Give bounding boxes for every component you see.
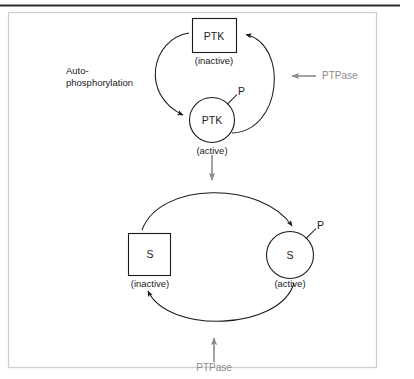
autophosphorylation-label-line2: phosphorylation bbox=[66, 78, 133, 89]
s-phosphate-label: P bbox=[317, 219, 324, 231]
autophosphorylation-arc bbox=[155, 33, 189, 115]
ptk-inactive-label: PTK bbox=[204, 30, 224, 42]
s-phosphate-stalk bbox=[306, 229, 316, 239]
ptpase-label-upper: PTPase bbox=[322, 70, 358, 82]
substrate-phosphorylation-arc bbox=[142, 193, 292, 230]
ptk-active-state: (active) bbox=[196, 146, 227, 157]
s-inactive-state: (inactive) bbox=[131, 279, 170, 290]
s-inactive-label: S bbox=[146, 248, 153, 260]
s-active-label: S bbox=[286, 249, 293, 261]
s-active-state: (active) bbox=[274, 279, 305, 290]
ptk-active-label: PTK bbox=[202, 114, 222, 126]
ptk-inactive-state: (inactive) bbox=[195, 56, 234, 67]
ptk-dephosphorylation-arc bbox=[232, 35, 274, 134]
figure-frame bbox=[9, 13, 377, 368]
substrate-dephosphorylation-arc bbox=[148, 283, 294, 321]
ptpase-label-lower: PTPase bbox=[196, 362, 232, 374]
figure-root: PTK (inactive) PTK (active) P Auto- phos… bbox=[0, 0, 414, 379]
autophosphorylation-label-line1: Auto- bbox=[66, 66, 89, 77]
ptk-phosphate-label: P bbox=[238, 85, 245, 97]
ptk-phosphate-stalk bbox=[228, 95, 238, 105]
